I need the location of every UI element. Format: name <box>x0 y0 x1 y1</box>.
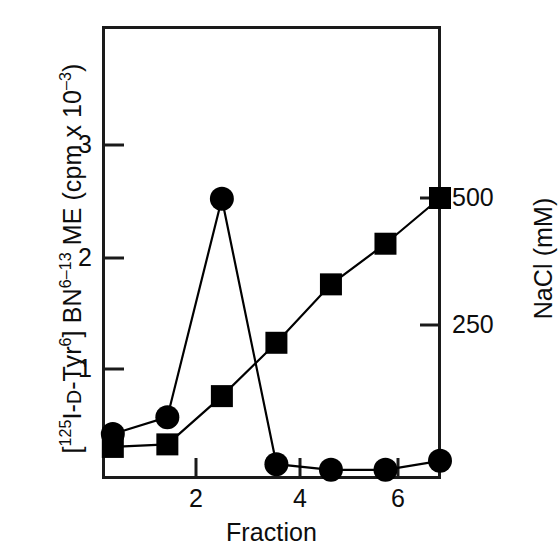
data-point-square-4 <box>265 332 287 354</box>
data-point-circle-4 <box>264 452 288 476</box>
y-axis-left-ticks <box>103 145 124 369</box>
series-layer <box>101 187 452 482</box>
data-point-square-1 <box>102 436 124 458</box>
data-point-square-2 <box>156 433 178 455</box>
data-point-circle-5 <box>319 458 343 482</box>
y-axis-right-ticks <box>420 198 440 325</box>
x-axis-ticks <box>196 458 398 478</box>
data-point-square-6 <box>374 233 396 255</box>
data-point-circle-3 <box>210 187 234 211</box>
data-point-square-5 <box>320 273 342 295</box>
data-point-square-3 <box>211 385 233 407</box>
data-point-circle-6 <box>373 458 397 482</box>
data-point-square-7 <box>429 187 451 209</box>
data-point-circle-7 <box>428 449 452 473</box>
data-point-circle-2 <box>155 405 179 429</box>
